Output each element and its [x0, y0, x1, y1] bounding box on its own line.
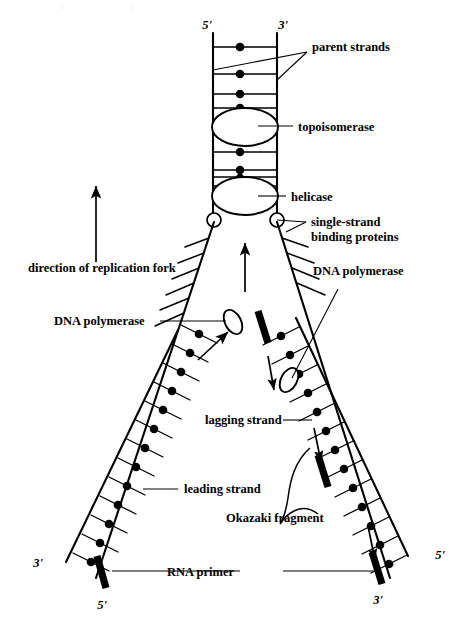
leading-template-backbone	[96, 222, 214, 578]
dna-replication-figure: c c	[0, 0, 475, 630]
label-leading-strand: leading strand	[184, 482, 261, 496]
svg-text:c: c	[60, 1, 64, 11]
label-okazaki-fragment: Okazaki fragment	[226, 511, 324, 525]
label-ssb-line2: binding proteins	[311, 230, 399, 244]
parent-duplex	[212, 33, 278, 222]
topoisomerase-ellipse	[212, 108, 278, 146]
label-topoisomerase: topoisomerase	[298, 120, 375, 134]
terminus-bottom-right-inner: 3'	[372, 593, 383, 607]
label-parent-strands: parent strands	[312, 40, 390, 54]
terminus-top-left: 5'	[202, 18, 212, 32]
label-direction-of-replication-fork: direction of replication fork	[28, 261, 176, 275]
rna-primer-lagging-top	[258, 311, 268, 343]
leader-parent-strands-2	[277, 52, 307, 80]
label-lagging-strand: lagging strand	[205, 413, 282, 427]
lagging-base-pairs	[263, 327, 407, 573]
label-ssb-line1: single-strand	[311, 215, 381, 229]
terminus-bottom-left-outer: 3'	[32, 556, 43, 570]
leader-ssb-2	[286, 222, 306, 232]
label-dna-polymerase-left: DNA polymerase	[54, 314, 145, 328]
rna-primer-leading	[97, 556, 106, 588]
terminus-top-right: 3'	[277, 18, 288, 32]
label-rna-primer: RNA primer	[167, 565, 234, 579]
leading-single-strand-ticks	[155, 238, 209, 326]
replication-fork-diagram: c c	[0, 0, 475, 630]
leading-daughter-backbone	[66, 330, 178, 562]
leading-strand-arm	[66, 222, 246, 588]
dna-polymerase-right-ellipse	[276, 365, 302, 395]
lagging-synthesis-arrow-upper	[268, 356, 274, 390]
label-dna-polymerase-right: DNA polymerase	[313, 264, 404, 278]
svg-text:c: c	[130, 1, 134, 11]
dna-polymerase-left-ellipse	[220, 307, 246, 337]
terminus-bottom-right-outer: 5'	[435, 548, 445, 562]
leading-base-pairs	[73, 325, 217, 571]
rna-primer-lagging-middle	[318, 455, 328, 487]
scan-artifact: c c	[60, 1, 134, 11]
leader-parent-strands	[213, 52, 307, 70]
label-helicase: helicase	[291, 190, 333, 204]
terminus-bottom-left-inner: 5'	[97, 598, 107, 612]
leader-dna-polymerase-right	[292, 289, 338, 378]
